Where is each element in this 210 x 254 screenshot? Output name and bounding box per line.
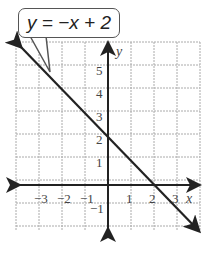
- coordinate-graph: −3−2−112354321−1 x y: [0, 0, 210, 254]
- x-tick-label: 2: [149, 191, 156, 206]
- x-tick-label: 3: [172, 191, 179, 206]
- y-tick-label: 5: [96, 63, 103, 78]
- y-tick-label: 1: [96, 155, 103, 170]
- equation-callout: y = −x + 2: [18, 8, 120, 38]
- x-tick-label: −2: [57, 191, 71, 206]
- y-tick-label: 3: [96, 109, 103, 124]
- x-axis-label: x: [185, 191, 193, 206]
- y-tick-label: 2: [96, 132, 103, 147]
- x-tick-label: −3: [34, 191, 48, 206]
- y-tick-label: 4: [96, 86, 103, 101]
- y-tick-label: −1: [90, 201, 104, 216]
- x-tick-label: 1: [126, 191, 133, 206]
- y-axis-label: y: [114, 44, 123, 59]
